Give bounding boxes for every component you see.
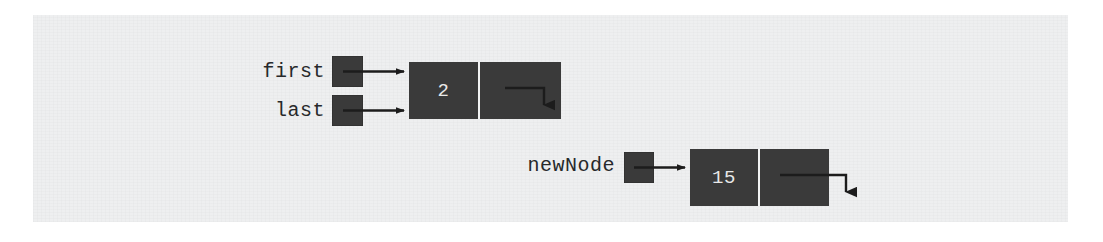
node-new-link [758, 149, 829, 206]
pointer-box-newnode [624, 152, 654, 183]
figure-canvas: first last newNode 2 15 [0, 0, 1103, 242]
pointer-box-first [332, 56, 363, 87]
node-existing: 2 [409, 62, 561, 119]
arrow-layer [0, 0, 1103, 242]
node-new: 15 [690, 149, 829, 206]
node-existing-data: 2 [409, 62, 478, 119]
label-newnode: newNode [470, 156, 615, 176]
pointer-box-last [332, 95, 363, 126]
diagram-content: first last newNode 2 15 [0, 0, 1103, 242]
label-last: last [200, 101, 325, 121]
node-new-data: 15 [690, 149, 758, 206]
node-existing-link [478, 62, 561, 119]
label-first: first [200, 62, 325, 82]
